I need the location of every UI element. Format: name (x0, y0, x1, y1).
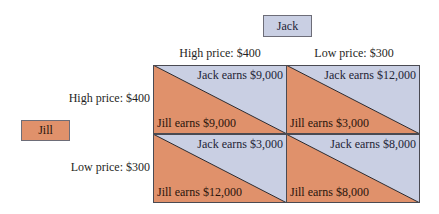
jack-player-name: Jack (277, 19, 298, 34)
jill-player-name: Jill (38, 123, 53, 138)
jill-payoff: Jill earns $12,000 (157, 185, 242, 200)
jack-payoff: Jack earns $9,000 (197, 68, 283, 83)
row-header-high-price: High price: $400 (69, 91, 150, 106)
payoff-cell-high-low: Jack earns $12,000 Jill earns $3,000 (286, 65, 420, 134)
jack-payoff: Jack earns $3,000 (197, 137, 283, 152)
jill-payoff: Jill earns $3,000 (290, 116, 369, 131)
payoff-cell-low-low: Jack earns $8,000 Jill earns $8,000 (286, 134, 420, 203)
jack-player-label: Jack (263, 15, 312, 37)
row-header-low-price: Low price: $300 (71, 160, 150, 175)
jack-payoff: Jack earns $12,000 (324, 68, 416, 83)
jill-payoff: Jill earns $8,000 (290, 185, 369, 200)
payoff-cell-low-high: Jack earns $3,000 Jill earns $12,000 (153, 134, 287, 203)
jack-payoff: Jack earns $8,000 (330, 137, 416, 152)
payoff-cell-high-high: Jack earns $9,000 Jill earns $9,000 (153, 65, 287, 134)
column-header-low-price: Low price: $300 (287, 46, 421, 61)
column-header-high-price: High price: $400 (153, 46, 287, 61)
jill-payoff: Jill earns $9,000 (157, 116, 236, 131)
jill-player-label: Jill (21, 120, 70, 141)
payoff-matrix: Jack earns $9,000 Jill earns $9,000 Jack… (153, 65, 420, 203)
